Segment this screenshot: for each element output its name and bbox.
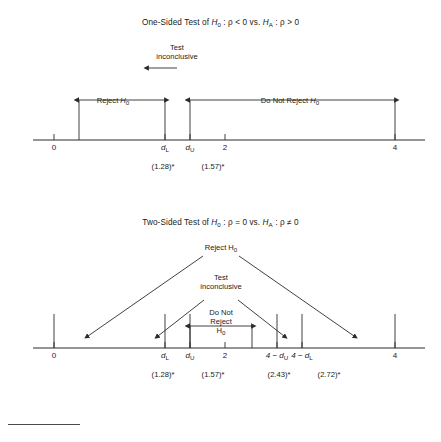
star2-value-dl: (1.28)*: [152, 370, 175, 379]
tick2-label-dl: dL: [161, 351, 169, 361]
tick2-label-2: 2: [223, 351, 227, 360]
star2-value-du: (1.57)*: [202, 370, 225, 379]
tick-label-4: 4: [393, 143, 397, 152]
tick2-label-0: 0: [52, 351, 56, 360]
one-sided-panel: One-Sided Test of H0 : ρ < 0 vs. HA : ρ …: [0, 0, 441, 180]
two-sided-graphics: [0, 196, 441, 442]
reject-arrow-right: [239, 256, 354, 336]
tick-label-dl: dL: [161, 143, 169, 153]
tick2-label-4mdl: 4 − dL: [291, 351, 312, 361]
reject-arrow-left: [88, 256, 203, 336]
star-value-du: (1.57)*: [202, 162, 225, 171]
two-sided-panel: Two-Sided Test of H0 : ρ = 0 vs. HA : ρ …: [0, 196, 441, 442]
tick-label-0: 0: [52, 143, 56, 152]
footnote-rule: [8, 424, 80, 425]
star2-value-4mdl: (2.72)*: [318, 370, 341, 379]
tick2-label-4: 4: [393, 351, 397, 360]
one-sided-graphics: [0, 0, 441, 180]
star-value-dl: (1.28)*: [152, 162, 175, 171]
tick2-label-4mdu: 4 − dU: [266, 351, 288, 361]
tick-label-2: 2: [223, 143, 227, 152]
star2-value-4mdu: (2.43)*: [268, 370, 291, 379]
durbin-watson-figure: One-Sided Test of H0 : ρ < 0 vs. HA : ρ …: [0, 0, 441, 442]
tick2-label-du: dU: [186, 351, 195, 361]
tick-label-du: dU: [186, 143, 195, 153]
